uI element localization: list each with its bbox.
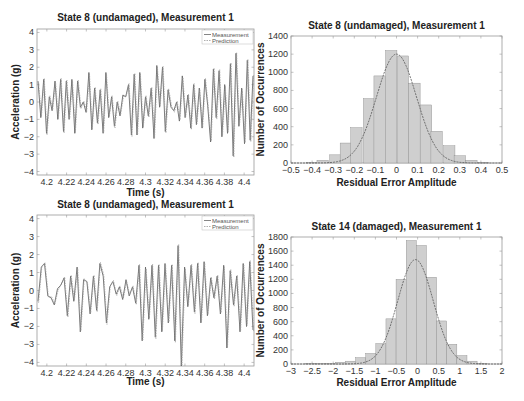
legend: MeasurementPrediction — [202, 216, 253, 230]
hist-top-chart: State 8 (undamaged), Measurement 1−0.5−0… — [255, 20, 508, 188]
histogram-bar — [396, 279, 406, 364]
histogram-bar — [376, 344, 386, 364]
x-tick-label: 0.2 — [432, 165, 445, 175]
ts-top-chart: State 8 (undamaged), Measurement 14.24.2… — [10, 12, 254, 198]
y-tick-label: 0 — [29, 286, 34, 296]
x-tick-label: −0.2 — [345, 165, 363, 175]
x-tick-label: 4.26 — [97, 368, 115, 378]
x-tick-label: 4.2 — [41, 368, 54, 378]
histogram-bar — [416, 245, 426, 364]
x-tick-label: 4.36 — [196, 177, 214, 187]
y-tick-label: 600 — [273, 104, 288, 114]
histogram-bar — [409, 83, 420, 163]
y-tick-label: 600 — [273, 317, 288, 327]
histogram-bar — [426, 277, 436, 364]
y-tick-label: −3 — [24, 149, 34, 159]
x-tick-label: −1.5 — [345, 366, 363, 376]
y-tick-label: 1 — [29, 80, 34, 90]
y-tick-label: −1 — [24, 303, 34, 313]
x-tick-label: 4.38 — [216, 368, 234, 378]
x-tick-label: 4.22 — [58, 368, 76, 378]
x-tick-label: 0.3 — [454, 165, 467, 175]
x-tick-label: −0.5 — [388, 366, 406, 376]
x-axis-label: Time (s) — [126, 187, 164, 198]
histogram-bar — [386, 51, 397, 163]
y-tick-label: 0 — [29, 97, 34, 107]
histogram-bar — [447, 344, 457, 364]
ts-bottom-chart: State 8 (undamaged), Measurement 14.24.2… — [10, 199, 254, 387]
x-tick-label: 4.2 — [41, 177, 54, 187]
legend-prediction: Prediction — [212, 38, 239, 44]
y-tick-label: 200 — [273, 140, 288, 150]
y-tick-label: 2 — [29, 250, 34, 260]
y-tick-label: 1000 — [268, 288, 288, 298]
y-tick-label: 800 — [273, 85, 288, 95]
x-tick-label: 4.34 — [176, 177, 194, 187]
x-tick-label: 2 — [499, 366, 504, 376]
chart-title: State 14 (damaged), Measurement 1 — [311, 221, 481, 232]
x-tick-label: −2.5 — [303, 366, 321, 376]
x-tick-label: −2 — [328, 366, 338, 376]
y-tick-label: 1400 — [268, 31, 288, 41]
x-tick-label: 0 — [415, 366, 420, 376]
histogram-bar — [397, 56, 408, 163]
y-tick-label: 0 — [283, 158, 288, 168]
y-tick-label: −3 — [24, 339, 34, 349]
hist-bottom-chart: State 14 (damaged), Measurement 1−3−2.5−… — [255, 221, 505, 388]
x-tick-label: 4.4 — [238, 368, 251, 378]
y-tick-label: 3 — [29, 232, 34, 242]
histogram-bar — [374, 76, 385, 163]
histogram-bar — [330, 155, 341, 163]
y-axis-label: Number of Occurrences — [255, 42, 266, 156]
x-tick-label: 4.32 — [156, 177, 174, 187]
y-tick-label: 400 — [273, 331, 288, 341]
x-tick-label: 4.36 — [196, 368, 214, 378]
histogram-bar — [406, 241, 416, 364]
y-tick-label: 200 — [273, 345, 288, 355]
histogram-bar — [366, 353, 376, 364]
x-axis-label: Residual Error Amplitude — [336, 377, 457, 388]
chart-title: State 8 (undamaged), Measurement 1 — [57, 199, 234, 210]
y-tick-label: 800 — [273, 303, 288, 313]
histogram-bar — [457, 356, 467, 364]
x-tick-label: −1 — [370, 366, 380, 376]
y-tick-label: 4 — [29, 214, 34, 224]
y-tick-label: 1200 — [268, 49, 288, 59]
x-tick-label: 1.5 — [475, 366, 488, 376]
y-tick-label: −1 — [24, 114, 34, 124]
histogram-bar — [444, 146, 455, 163]
y-axis-label: Acceleration (g) — [10, 64, 21, 140]
x-tick-label: −0.4 — [303, 165, 321, 175]
histogram-bar — [386, 319, 396, 364]
x-tick-label: 4.3 — [139, 177, 152, 187]
legend-prediction: Prediction — [212, 224, 239, 230]
x-tick-label: 4.22 — [58, 177, 76, 187]
x-tick-label: 4.24 — [78, 368, 96, 378]
x-tick-label: 4.26 — [97, 177, 115, 187]
x-axis-label: Residual Error Amplitude — [336, 177, 457, 188]
y-tick-label: −4 — [24, 167, 34, 177]
x-tick-label: 0.5 — [432, 366, 445, 376]
y-tick-label: 3 — [29, 45, 34, 55]
x-tick-label: 0 — [394, 165, 399, 175]
x-tick-label: 0.5 — [496, 165, 509, 175]
y-tick-label: 1400 — [268, 260, 288, 270]
y-tick-label: 1200 — [268, 274, 288, 284]
chart-title: State 8 (undamaged), Measurement 1 — [57, 12, 234, 23]
legend: MeasurementPrediction — [202, 30, 253, 44]
y-tick-label: −2 — [24, 321, 34, 331]
y-tick-label: 400 — [273, 122, 288, 132]
x-tick-label: 4.4 — [238, 177, 251, 187]
x-tick-label: 0.1 — [411, 165, 424, 175]
y-axis-label: Number of Occurrences — [255, 243, 266, 357]
x-tick-label: 4.28 — [117, 177, 135, 187]
chart-title: State 8 (undamaged), Measurement 1 — [308, 20, 485, 31]
y-tick-label: 0 — [283, 359, 288, 369]
y-tick-label: −2 — [24, 132, 34, 142]
x-axis-label: Time (s) — [126, 376, 164, 387]
y-tick-label: 1800 — [268, 232, 288, 242]
y-tick-label: 1000 — [268, 67, 288, 77]
x-tick-label: 4.38 — [216, 177, 234, 187]
histogram-bar — [351, 128, 362, 163]
x-tick-label: −0.3 — [324, 165, 342, 175]
